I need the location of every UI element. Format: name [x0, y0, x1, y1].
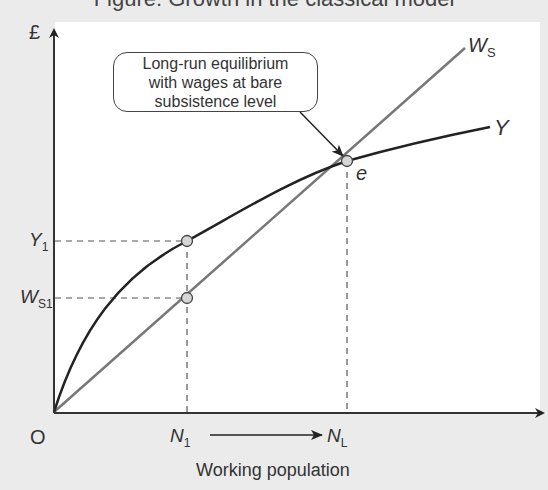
ws-curve-label: WS: [468, 35, 496, 55]
y-axis-label: £: [29, 22, 40, 42]
y1-label: Y1: [29, 230, 48, 249]
nl-label: NL: [327, 426, 347, 445]
equilibrium-callout: Long-run equilibrium with wages at bare …: [113, 52, 318, 112]
callout-line-1: Long-run equilibrium: [143, 54, 289, 73]
callout-line-2: with wages at bare: [149, 73, 282, 92]
equilibrium-label: e: [356, 163, 367, 183]
callout-pointer: [300, 112, 343, 156]
ws1-label: WS1: [20, 287, 53, 306]
n1-label: N1: [170, 426, 190, 445]
y-curve-label: Y: [494, 117, 509, 139]
callout-line-3: subsistence level: [155, 92, 277, 111]
ws1-point: [182, 293, 193, 304]
x-axis-label: Working population: [196, 461, 350, 479]
guide-lines: [55, 161, 347, 413]
equilibrium-point: [342, 156, 353, 167]
y1-point: [182, 236, 193, 247]
origin-label: O: [30, 427, 46, 447]
y-curve: [54, 127, 490, 412]
